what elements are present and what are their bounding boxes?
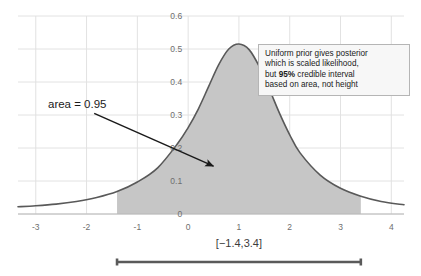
x-tick-2: 2	[287, 222, 292, 232]
y-tick-0.6: 0.6	[170, 11, 182, 21]
credible-interval-bar	[117, 259, 361, 266]
y-tick-0.3: 0.3	[170, 110, 182, 120]
x-tick--3: -3	[32, 222, 40, 232]
x-tick--1: -1	[134, 222, 142, 232]
y-tick-0.5: 0.5	[170, 44, 182, 54]
y-tick-0: 0	[177, 209, 182, 219]
posterior-credible-interval-chart: -3-2-101234 00.10.20.30.40.50.6 area = 0…	[0, 0, 421, 276]
note-line-4: based on area, not height	[265, 80, 403, 90]
x-tick--2: -2	[83, 222, 91, 232]
credible-interval-label: [−1.4,3.4]	[216, 237, 262, 249]
x-tick-4: 4	[389, 222, 394, 232]
x-tick-1: 1	[237, 222, 242, 232]
x-tick-3: 3	[338, 222, 343, 232]
x-axis-tick-labels: -3-2-101234	[32, 222, 394, 232]
y-tick-0.1: 0.1	[170, 176, 182, 186]
note-line-3: but 95% credible interval	[265, 70, 403, 80]
note-line-3-prefix: but	[265, 70, 279, 79]
y-tick-0.4: 0.4	[170, 77, 182, 87]
note-line-2: which is scaled likelihood,	[265, 59, 403, 69]
area-annotation-label: area = 0.95	[48, 98, 107, 110]
posterior-note-box: Uniform prior gives posterior which is s…	[258, 44, 410, 96]
x-tick-0: 0	[186, 222, 191, 232]
note-line-3-emphasis: 95%	[279, 70, 295, 79]
note-line-3-suffix: credible interval	[295, 70, 355, 79]
note-line-1: Uniform prior gives posterior	[265, 49, 403, 59]
